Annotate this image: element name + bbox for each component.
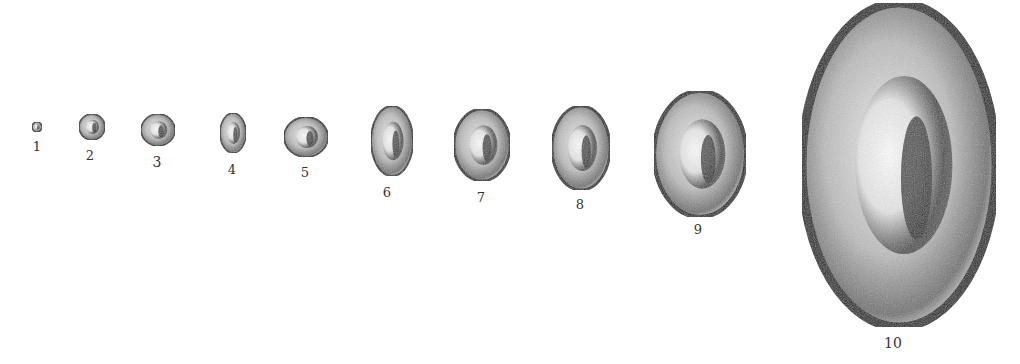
cell-shadow <box>158 125 163 137</box>
cell-shadow <box>701 135 716 183</box>
cell-shadow <box>92 123 96 133</box>
cell-3 <box>141 114 175 146</box>
cell-shadow <box>306 131 313 146</box>
cell-1 <box>32 122 42 132</box>
cell-2 <box>79 114 105 140</box>
cell-10 <box>802 3 996 327</box>
cell-7 <box>454 109 510 181</box>
cell-number-label: 2 <box>86 148 94 163</box>
cell-number-label: 7 <box>477 190 485 205</box>
cell-8 <box>552 106 610 190</box>
cell-shadow <box>233 127 237 142</box>
cell-shadow <box>582 135 591 167</box>
cell-number-label: 3 <box>153 154 162 170</box>
cell-number-label: 10 <box>884 335 902 351</box>
cells-group <box>32 3 996 327</box>
cell-4 <box>220 113 246 153</box>
cell-5 <box>284 117 328 157</box>
cell-number-label: 8 <box>576 197 584 212</box>
cell-number-label: 9 <box>694 222 702 237</box>
cell-shadow <box>483 134 492 161</box>
cell-shadow <box>37 126 39 130</box>
cell-9 <box>654 91 746 217</box>
cell-shadow <box>901 116 932 239</box>
cell-size-plate: 12345678910 <box>0 0 1020 364</box>
cell-number-label: 6 <box>383 185 391 200</box>
cell-6 <box>371 106 413 176</box>
cell-number-label: 1 <box>33 139 41 154</box>
cell-shadow <box>392 131 399 158</box>
cell-number-label: 4 <box>228 162 236 177</box>
cell-number-label: 5 <box>301 165 309 180</box>
